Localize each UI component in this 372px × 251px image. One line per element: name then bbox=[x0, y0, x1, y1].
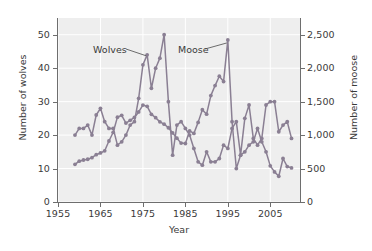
data-point bbox=[133, 120, 137, 124]
data-point bbox=[217, 157, 221, 161]
data-point bbox=[90, 133, 94, 137]
data-point bbox=[256, 143, 260, 147]
data-point bbox=[196, 120, 200, 124]
data-point bbox=[273, 100, 277, 104]
x-tick bbox=[100, 203, 101, 207]
data-point bbox=[243, 150, 247, 154]
data-point bbox=[154, 66, 158, 70]
y-axis-right-title: Number of moose bbox=[348, 38, 359, 158]
data-point bbox=[264, 150, 268, 154]
y-tick-left bbox=[53, 35, 57, 36]
data-point bbox=[179, 141, 183, 145]
data-point bbox=[82, 127, 86, 131]
data-point bbox=[264, 103, 268, 107]
data-point bbox=[247, 143, 251, 147]
data-point bbox=[209, 94, 213, 98]
data-point bbox=[213, 160, 217, 164]
data-point bbox=[103, 149, 107, 153]
y-tick-label-right: 2,000 bbox=[307, 62, 353, 73]
data-point bbox=[256, 127, 260, 131]
data-point bbox=[166, 126, 170, 130]
y-tick-left bbox=[53, 135, 57, 136]
data-point bbox=[200, 163, 204, 167]
y-tick-left bbox=[53, 68, 57, 69]
series-label-wolves: Wolves bbox=[93, 44, 127, 55]
data-point bbox=[154, 116, 158, 120]
x-axis-title: Year bbox=[58, 224, 300, 235]
data-point bbox=[166, 100, 170, 104]
y-tick-label-right: 500 bbox=[307, 163, 353, 174]
data-point bbox=[196, 160, 200, 164]
data-point bbox=[145, 53, 149, 57]
data-point bbox=[226, 38, 230, 42]
data-point bbox=[205, 112, 209, 116]
y-tick-label-right: 2,500 bbox=[307, 29, 353, 40]
y-axis-left-line bbox=[57, 18, 58, 203]
data-point bbox=[145, 104, 149, 108]
data-point bbox=[222, 80, 226, 84]
y-tick-right bbox=[301, 68, 305, 69]
y-tick-label-right: 1,000 bbox=[307, 129, 353, 140]
data-point bbox=[290, 166, 294, 170]
x-tick bbox=[228, 203, 229, 207]
data-point bbox=[158, 56, 162, 60]
data-point bbox=[226, 147, 230, 151]
data-point bbox=[251, 140, 255, 144]
y-tick-left bbox=[53, 202, 57, 203]
data-point bbox=[77, 159, 81, 163]
series-line bbox=[75, 40, 292, 176]
x-tick bbox=[58, 203, 59, 207]
x-tick-label: 1965 bbox=[80, 208, 120, 219]
data-point bbox=[86, 123, 90, 127]
y-tick-left bbox=[53, 169, 57, 170]
data-point bbox=[273, 170, 277, 174]
y-tick-label-left: 0 bbox=[10, 196, 50, 207]
data-point bbox=[222, 143, 226, 147]
y-tick-right bbox=[301, 202, 305, 203]
x-tick-label: 1985 bbox=[165, 208, 205, 219]
data-point bbox=[107, 139, 111, 143]
data-point bbox=[107, 127, 111, 131]
data-point bbox=[150, 112, 154, 116]
data-point bbox=[73, 133, 77, 137]
y-axis-left-title: Number of wolves bbox=[17, 38, 28, 158]
data-point bbox=[158, 120, 162, 124]
data-point bbox=[285, 120, 289, 124]
data-point bbox=[209, 160, 213, 164]
data-point bbox=[73, 162, 77, 166]
data-point bbox=[183, 127, 187, 131]
data-point bbox=[171, 131, 175, 135]
data-point bbox=[175, 136, 179, 140]
data-point bbox=[213, 84, 217, 88]
data-point bbox=[128, 123, 132, 127]
data-point bbox=[137, 96, 141, 100]
data-point bbox=[179, 120, 183, 124]
data-point bbox=[268, 164, 272, 168]
data-point bbox=[192, 147, 196, 151]
data-point bbox=[150, 86, 154, 90]
x-tick bbox=[143, 203, 144, 207]
data-point bbox=[120, 113, 124, 117]
data-point bbox=[260, 140, 264, 144]
data-point bbox=[133, 116, 137, 120]
y-tick-label-left: 10 bbox=[10, 163, 50, 174]
data-point bbox=[239, 153, 243, 157]
data-point bbox=[205, 150, 209, 154]
data-point bbox=[94, 153, 98, 157]
x-tick-label: 1955 bbox=[38, 208, 78, 219]
data-point bbox=[175, 123, 179, 127]
y-tick-right bbox=[301, 169, 305, 170]
y-tick-right bbox=[301, 35, 305, 36]
data-point bbox=[290, 137, 294, 141]
data-point bbox=[94, 113, 98, 117]
x-tick bbox=[270, 203, 271, 207]
data-point bbox=[103, 120, 107, 124]
data-point bbox=[277, 130, 281, 134]
y-tick-right bbox=[301, 102, 305, 103]
data-point bbox=[128, 118, 132, 122]
x-tick-label: 1975 bbox=[123, 208, 163, 219]
x-tick-label: 1995 bbox=[208, 208, 248, 219]
y-tick-label-right: 1,500 bbox=[307, 96, 353, 107]
data-point bbox=[86, 157, 90, 161]
y-tick-right bbox=[301, 135, 305, 136]
